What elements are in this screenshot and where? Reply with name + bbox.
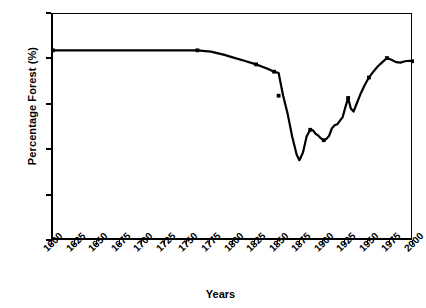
data-point-marker — [254, 62, 258, 66]
x-axis-title: Years — [0, 288, 423, 300]
data-point-marker — [367, 76, 371, 80]
data-point-marker — [308, 128, 312, 132]
data-point-marker — [53, 48, 55, 52]
data-point-marker — [272, 70, 276, 74]
data-point-marker — [346, 96, 350, 100]
data-point-marker — [385, 56, 389, 60]
data-line-series — [53, 14, 414, 241]
forest-percentage-polyline — [53, 50, 414, 160]
data-point-marker — [322, 138, 326, 142]
plot-area — [51, 13, 412, 240]
data-point-marker — [277, 94, 281, 98]
x-axis-tick-label: 1600 — [41, 230, 65, 254]
x-axis-title-text: Years — [206, 288, 235, 300]
data-point-marker — [412, 59, 414, 63]
data-point-marker — [196, 48, 200, 52]
y-axis-title: Percentage Forest (%) — [26, 16, 38, 196]
